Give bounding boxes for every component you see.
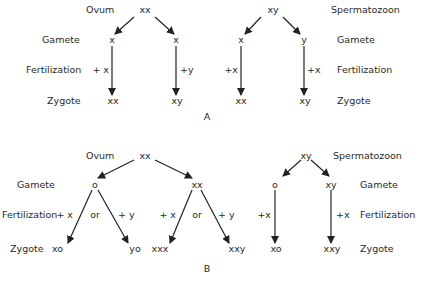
sperm-label: Spermatozoon — [333, 151, 402, 161]
gamete: xy — [325, 180, 336, 190]
row-label-gamete: Gamete — [42, 35, 80, 45]
row-label-fertilization-right: Fertilization — [360, 210, 415, 220]
arrow — [283, 160, 301, 176]
panel-label-a: A — [204, 112, 211, 122]
fert-label: + x — [92, 65, 109, 75]
ovum-label: Ovum — [86, 151, 114, 161]
zygote: xy — [171, 96, 182, 106]
zygote: xxy — [229, 244, 246, 254]
gamete: x — [173, 35, 179, 45]
zygote: xxy — [324, 244, 341, 254]
row-label-gamete-right: Gamete — [337, 35, 375, 45]
fert-label: + x — [159, 210, 176, 220]
gamete: x — [238, 35, 244, 45]
or-label: or — [90, 210, 100, 220]
fert-label: +x — [307, 65, 321, 75]
row-label-zygote-right: Zygote — [337, 96, 371, 106]
arrow — [155, 17, 174, 34]
ovum-genotype: xx — [139, 151, 150, 161]
row-label-zygote: Zygote — [10, 244, 44, 254]
gamete: y — [301, 35, 307, 45]
arrow — [155, 160, 192, 178]
gamete: xx — [191, 180, 202, 190]
fert-label: +x — [224, 65, 238, 75]
row-label-zygote: Zygote — [47, 96, 81, 106]
ovum-genotype: xx — [139, 5, 150, 15]
sperm-genotype: xy — [300, 151, 311, 161]
sperm-genotype: xy — [267, 5, 278, 15]
fert-label: + x — [56, 210, 73, 220]
zygote: xx — [107, 96, 118, 106]
fert-label: +y — [180, 65, 194, 75]
row-label-gamete: Gamete — [17, 180, 55, 190]
fert-label: +x — [257, 210, 271, 220]
arrow — [98, 160, 134, 178]
row-label-fertilization: Fertilization — [26, 65, 81, 75]
panel-label-b: B — [204, 264, 211, 274]
zygote: xxx — [152, 244, 169, 254]
gamete: o — [272, 180, 278, 190]
sperm-label: Spermatozoon — [331, 5, 400, 15]
gamete: x — [109, 35, 115, 45]
zygote: xo — [52, 244, 63, 254]
gamete: o — [92, 180, 98, 190]
zygote: xy — [299, 96, 310, 106]
ovum-label: Ovum — [86, 5, 114, 15]
arrow — [115, 17, 134, 34]
fert-label: +x — [336, 210, 350, 220]
fert-label: + y — [218, 210, 235, 220]
row-label-fertilization-right: Fertilization — [337, 65, 392, 75]
or-label: or — [192, 210, 202, 220]
arrow — [245, 17, 261, 34]
row-label-gamete-right: Gamete — [360, 180, 398, 190]
fert-label: + y — [118, 210, 135, 220]
zygote: xo — [270, 244, 281, 254]
zygote: xx — [235, 96, 246, 106]
arrow — [311, 160, 329, 176]
zygote: yo — [129, 244, 140, 254]
arrow — [283, 17, 300, 34]
row-label-zygote-right: Zygote — [360, 244, 394, 254]
row-label-fertilization: Fertilization — [2, 210, 57, 220]
